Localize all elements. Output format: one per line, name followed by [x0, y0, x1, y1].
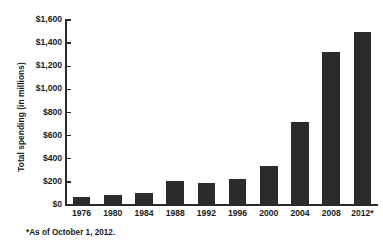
bar: [73, 197, 91, 205]
y-axis-tick-label: $1,000: [0, 83, 62, 93]
bar: [104, 195, 122, 205]
x-axis-tick-label: 2012*: [332, 208, 383, 218]
bar: [291, 122, 309, 205]
bar: [166, 181, 184, 205]
y-axis-tick-label: $1,200: [0, 60, 62, 70]
bar: [198, 183, 216, 205]
y-axis-tick-label: $400: [0, 153, 62, 163]
y-axis-tick-label: $1,400: [0, 37, 62, 47]
bar: [135, 193, 153, 205]
bar: [229, 179, 247, 205]
bar: [260, 166, 278, 205]
y-axis-tick-label: $200: [0, 176, 62, 186]
y-axis-tick-label: $1,600: [0, 14, 62, 24]
bar: [354, 32, 372, 205]
y-axis-tick-label: $800: [0, 107, 62, 117]
bar-chart-figure: Total spending (in millions) $0$200$400$…: [0, 0, 383, 246]
chart-footnote: *As of October 1, 2012.: [26, 228, 115, 237]
y-axis-tick-label: $600: [0, 130, 62, 140]
plot-area: [66, 20, 378, 205]
bar: [322, 52, 340, 205]
